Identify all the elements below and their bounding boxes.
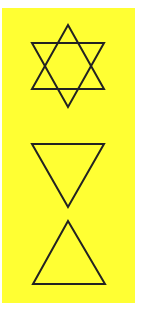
hexagram-icon — [32, 25, 104, 107]
upward-triangle-icon — [33, 221, 105, 284]
downward-triangle-icon — [32, 144, 104, 207]
symbol-card-graphics — [0, 0, 147, 309]
